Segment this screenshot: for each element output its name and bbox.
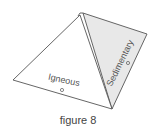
figure-caption: figure 8: [0, 114, 156, 126]
net-diagram: Igneous Sedimentary: [0, 0, 156, 131]
